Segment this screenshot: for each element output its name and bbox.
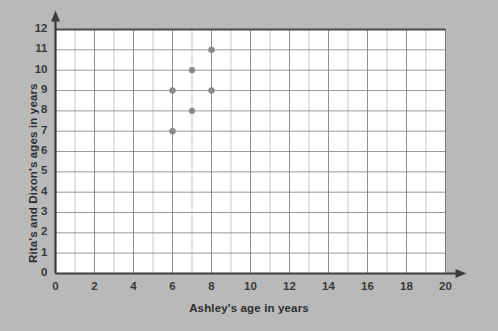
y-tick-label: 0 [26,266,48,278]
x-tick-label: 16 [356,280,380,292]
y-axis-title: Rita's and Dixon's ages in years [27,83,39,263]
x-tick-label: 10 [239,280,263,292]
y-tick-label: 12 [26,22,48,34]
scatter-plot-figure: 0123456789101112 02468101214161820 Rita'… [0,0,498,331]
x-tick-label: 12 [278,280,302,292]
data-point [170,128,176,134]
x-tick-label: 8 [200,280,224,292]
x-tick-label: 14 [317,280,341,292]
data-point [170,88,176,94]
y-axis-arrowhead [51,11,60,22]
data-point [189,67,195,73]
x-tick-label: 6 [161,280,185,292]
y-tick-label: 11 [26,42,48,54]
y-tick-label: 10 [26,63,48,75]
x-tick-label: 0 [44,280,68,292]
data-point [189,108,195,114]
x-tick-label: 4 [122,280,146,292]
data-point [209,88,215,94]
x-axis-title: Ashley's age in years [0,302,498,314]
x-tick-label: 2 [83,280,107,292]
x-tick-label: 20 [434,280,458,292]
data-point [209,47,215,53]
x-axis-arrowhead [456,269,467,278]
x-tick-label: 18 [395,280,419,292]
